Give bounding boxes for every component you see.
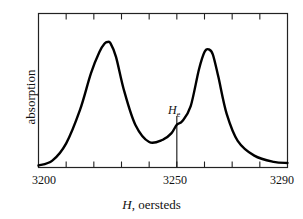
plot-frame bbox=[39, 14, 288, 168]
x-axis-label: H, oersteds bbox=[0, 197, 303, 213]
x-axis-unit: , oersteds bbox=[132, 197, 181, 212]
he-annotation-label: H bbox=[168, 103, 177, 117]
axis-ticks bbox=[66, 14, 260, 168]
x-tick-label-3200: 3200 bbox=[32, 174, 56, 186]
he-annotation: He bbox=[168, 103, 180, 119]
y-axis-label: absorption bbox=[23, 70, 39, 125]
x-tick-label-3290: 3290 bbox=[270, 174, 294, 186]
x-tick-label-3250: 3250 bbox=[163, 174, 187, 186]
absorption-curve bbox=[39, 42, 288, 166]
he-annotation-subscript: e bbox=[177, 110, 181, 119]
x-axis-variable: H bbox=[122, 197, 131, 212]
